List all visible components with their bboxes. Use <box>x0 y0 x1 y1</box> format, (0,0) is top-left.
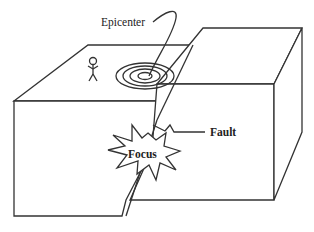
focus-label: Focus <box>128 148 157 160</box>
epicenter-label: Epicenter <box>101 16 145 29</box>
fault-label: Fault <box>210 126 236 138</box>
earthquake-diagram: Epicenter Fault Focus <box>0 0 314 232</box>
